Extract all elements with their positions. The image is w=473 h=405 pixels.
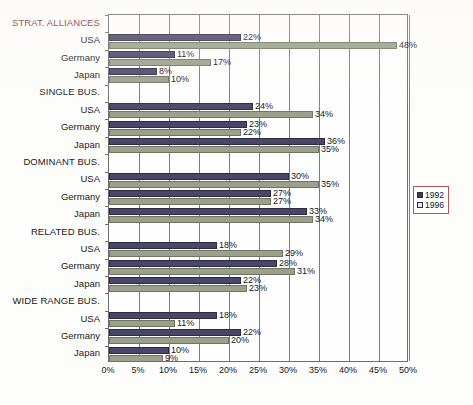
bar-value-label: 22%: [243, 33, 261, 42]
bar-1996: [109, 59, 211, 66]
bar-1992: [109, 173, 289, 180]
category-label: USA: [80, 104, 100, 116]
x-axis-tick-label: 30%: [279, 364, 297, 376]
bar-1996: [109, 198, 271, 205]
bar-value-label: 10%: [171, 75, 189, 84]
category-label: Germany: [61, 52, 100, 64]
bar-1992: [109, 242, 217, 249]
bar-1996: [109, 76, 169, 83]
bar-1992: [109, 312, 217, 319]
bar-value-label: 31%: [297, 267, 315, 276]
category-label: Japan: [74, 208, 100, 220]
bar-1996: [109, 146, 319, 153]
x-axis-tick-label: 50%: [399, 364, 417, 376]
bar-value-label: 24%: [255, 102, 273, 111]
bar-value-label: 35%: [321, 180, 339, 189]
gridline: [199, 15, 200, 361]
category-label: Japan: [74, 347, 100, 359]
x-axis-tick-label: 20%: [219, 364, 237, 376]
bar-value-label: 35%: [321, 145, 339, 154]
bar-1992: [109, 68, 157, 75]
category-label: USA: [80, 243, 100, 255]
bar-value-label: 11%: [177, 50, 194, 59]
axis-tickmark: [105, 293, 109, 294]
gridline: [349, 15, 350, 361]
bar-value-label: 18%: [219, 241, 237, 250]
bar-1992: [109, 51, 175, 58]
section-label: WIDE RANGE BUS.: [12, 295, 100, 307]
bar-value-label: 11%: [177, 319, 194, 328]
bar-1992: [109, 347, 169, 354]
x-axis-tick-label: 10%: [159, 364, 177, 376]
category-label: Japan: [74, 278, 100, 290]
bar-1992: [109, 138, 325, 145]
bar-1992: [109, 103, 253, 110]
bar-value-label: 28%: [279, 259, 297, 268]
bar-value-label: 20%: [231, 336, 249, 345]
bar-value-label: 34%: [315, 110, 333, 119]
category-label: Germany: [61, 121, 100, 133]
bar-1996: [109, 337, 229, 344]
bar-value-label: 9%: [165, 354, 178, 363]
x-axis-tick-label: 35%: [309, 364, 327, 376]
bar-1996: [109, 285, 247, 292]
bar-1996: [109, 129, 241, 136]
section-label: SINGLE BUS.: [39, 86, 100, 98]
bar-1996: [109, 320, 175, 327]
bar-value-label: 17%: [213, 58, 231, 67]
category-label: USA: [80, 34, 100, 46]
gridline: [319, 15, 320, 361]
bar-1992: [109, 190, 271, 197]
axis-tickmark: [105, 15, 109, 16]
x-axis-tick-label: 25%: [249, 364, 267, 376]
x-axis: 0%5%10%15%20%25%30%35%40%45%50%: [108, 364, 408, 378]
legend-swatch-1996: [417, 202, 423, 208]
bar-value-label: 34%: [315, 215, 333, 224]
axis-tickmark: [105, 154, 109, 155]
bar-value-label: 30%: [291, 172, 309, 181]
axis-tickmark: [105, 85, 109, 86]
bar-1996: [109, 268, 295, 275]
bar-1992: [109, 208, 307, 215]
category-label: USA: [80, 173, 100, 185]
bar-1996: [109, 181, 319, 188]
bar-1992: [109, 329, 241, 336]
category-label: Germany: [61, 191, 100, 203]
bar-1992: [109, 34, 241, 41]
axis-tickmark: [105, 224, 109, 225]
gridline: [379, 15, 380, 361]
bar-value-label: 23%: [249, 284, 267, 293]
bar-1996: [109, 42, 397, 49]
gridline: [409, 15, 410, 361]
bar-value-label: 27%: [273, 197, 291, 206]
category-label: Japan: [74, 139, 100, 151]
legend-label-1996: 1996: [425, 200, 444, 210]
section-label: DOMINANT BUS.: [23, 156, 100, 168]
x-axis-tick-label: 5%: [131, 364, 144, 376]
x-axis-tick-label: 40%: [339, 364, 357, 376]
x-axis-tick-label: 45%: [369, 364, 387, 376]
legend-label-1992: 1992: [425, 190, 444, 200]
chart-legend: 1992 1996: [413, 186, 449, 214]
bar-value-label: 22%: [243, 128, 261, 137]
bar-1992: [109, 121, 247, 128]
bar-1996: [109, 250, 283, 257]
bar-1992: [109, 277, 241, 284]
category-label: USA: [80, 313, 100, 325]
bar-chart: STRAT. ALLIANCESUSAGermanyJapanSINGLE BU…: [0, 0, 473, 405]
legend-item-1996: 1996: [417, 200, 444, 210]
category-label: Germany: [61, 330, 100, 342]
bar-value-label: 48%: [399, 41, 417, 50]
x-axis-tick-label: 15%: [189, 364, 207, 376]
category-label-column: STRAT. ALLIANCESUSAGermanyJapanSINGLE BU…: [0, 14, 104, 362]
category-label: Japan: [74, 69, 100, 81]
legend-item-1992: 1992: [417, 190, 444, 200]
bar-1992: [109, 260, 277, 267]
bar-value-label: 18%: [219, 311, 237, 320]
bar-1996: [109, 111, 313, 118]
plot-area: 22%48%11%17%8%10%24%34%23%22%36%35%30%35…: [108, 14, 408, 362]
bar-1996: [109, 355, 163, 362]
section-label: STRAT. ALLIANCES: [12, 17, 100, 29]
x-axis-tick-label: 0%: [101, 364, 114, 376]
legend-swatch-1992: [417, 192, 423, 198]
